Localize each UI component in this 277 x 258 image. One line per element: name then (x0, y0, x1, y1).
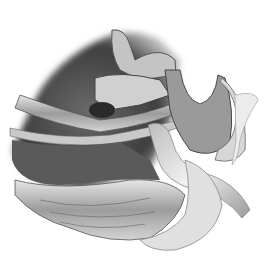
anatomical-illustration (0, 0, 277, 258)
dark-pocket (89, 102, 115, 118)
cross-section-drawing (0, 0, 277, 258)
lower-band (15, 180, 185, 240)
